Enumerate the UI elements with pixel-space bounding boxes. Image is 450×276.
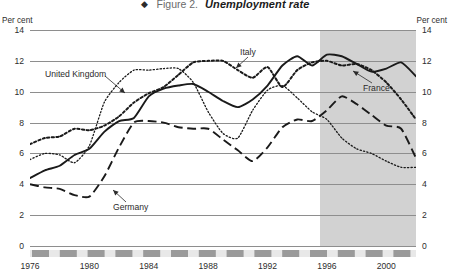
y-axis-tick-label: 14 — [2, 26, 24, 35]
chart-plot-area — [30, 30, 416, 246]
axis-dash — [171, 250, 188, 257]
figure-title-bar: ◆ Figure 2. Unemployment rate — [0, 0, 450, 12]
y-axis-tick-label: 0 — [422, 242, 444, 251]
y-axis-tick-label: 0 — [2, 242, 24, 251]
axis-dash — [282, 250, 299, 257]
series-line-germany — [30, 96, 416, 197]
figure-number: Figure 2. — [157, 0, 198, 10]
axis-dash — [254, 250, 271, 257]
y-axis-tick-label: 4 — [2, 180, 24, 189]
axis-dash — [32, 250, 49, 257]
y-axis-tick-label: 8 — [2, 119, 24, 128]
y-axis-tick-label: 14 — [422, 26, 444, 35]
y-axis-tick-label: 2 — [2, 211, 24, 220]
series-line-united-kingdom — [30, 68, 416, 168]
x-axis-labels: 1976198019841988199219962000 — [30, 262, 416, 274]
axis-dash — [199, 250, 216, 257]
axis-unit-right: Per cent — [417, 16, 448, 25]
y-axis-tick-label: 4 — [422, 180, 444, 189]
axis-dash — [60, 250, 77, 257]
x-axis-tick-label: 1976 — [20, 262, 39, 271]
y-axis-tick-label: 12 — [422, 57, 444, 66]
series-label-germany: Germany — [113, 203, 148, 212]
y-axis-tick-label: 6 — [422, 149, 444, 158]
axis-dash — [88, 250, 105, 257]
page-title: Unemployment rate — [205, 0, 309, 10]
y-axis-tick-label: 2 — [422, 211, 444, 220]
diamond-bullet-icon: ◆ — [141, 0, 148, 9]
y-axis-tick-label: 6 — [2, 149, 24, 158]
x-axis-tick-label: 1980 — [80, 262, 99, 271]
y-axis-tick-label: 10 — [422, 88, 444, 97]
x-axis-tick-label: 1996 — [317, 262, 336, 271]
y-axis-tick-label: 12 — [2, 57, 24, 66]
axis-dash — [393, 250, 410, 257]
x-axis-tick-label: 1988 — [199, 262, 218, 271]
y-axis-tick-label: 10 — [2, 88, 24, 97]
axis-dash — [143, 250, 160, 257]
y-axis-tick-label: 8 — [422, 119, 444, 128]
axis-unit-left: Per cent — [2, 16, 33, 25]
axis-dash — [115, 250, 132, 257]
series-lines — [30, 30, 416, 246]
axis-dash — [338, 250, 355, 257]
axis-dash — [310, 250, 327, 257]
x-axis-tick-label: 1984 — [139, 262, 158, 271]
series-label-france: France — [363, 84, 390, 93]
axis-footer-dashed-bar — [30, 250, 416, 257]
series-label-italy: Italy — [240, 48, 256, 57]
x-axis-tick-label: 1992 — [258, 262, 277, 271]
gridline — [30, 246, 416, 247]
series-label-united-kingdom: United Kingdom — [45, 70, 106, 79]
axis-dash — [366, 250, 383, 257]
x-axis-tick-label: 2000 — [377, 262, 396, 271]
axis-dash — [227, 250, 244, 257]
